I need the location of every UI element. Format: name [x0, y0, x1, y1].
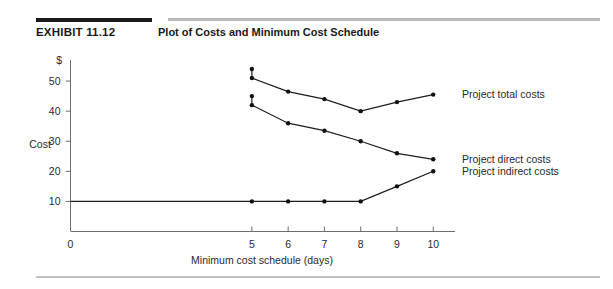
x-tick-label: 9: [394, 238, 400, 250]
y-tick-label: 20: [49, 165, 61, 177]
chart-series-layer: [71, 67, 436, 204]
series-data-point: [395, 100, 399, 104]
series-data-point: [322, 97, 326, 101]
x-tick-label: 0: [68, 238, 74, 250]
chart-axes: [71, 60, 456, 232]
series-line-path: [71, 171, 434, 201]
series-cap-point: [250, 94, 254, 98]
cost-schedule-chart: 1020304050 $ Cost 05678910 Minimum cost …: [0, 46, 613, 276]
series-data-point: [250, 76, 254, 80]
x-axis-ticks: 05678910: [68, 227, 440, 250]
series-data-point: [286, 121, 290, 125]
series-data-point: [250, 199, 254, 203]
series-line-path: [252, 78, 433, 111]
chart-canvas: 1020304050 $ Cost 05678910 Minimum cost …: [0, 46, 613, 276]
exhibit-header: EXHIBIT 11.12 Plot of Costs and Minimum …: [0, 0, 613, 48]
y-tick-label: 10: [49, 195, 61, 207]
series-1: [250, 67, 436, 114]
x-axis-title: Minimum cost schedule (days): [191, 254, 333, 266]
x-tick-label: 10: [427, 238, 439, 250]
y-axis-title: Cost: [29, 138, 51, 150]
series-data-point: [358, 109, 362, 113]
series-data-point: [395, 184, 399, 188]
exhibit-label: EXHIBIT 11.12: [36, 26, 115, 38]
y-axis-unit-label: $: [56, 54, 62, 66]
series-2: [250, 94, 436, 162]
chart-legend: Project total costsProject direct costsP…: [462, 88, 559, 177]
legend-label-3: Project indirect costs: [462, 165, 559, 177]
exhibit-title: Plot of Costs and Minimum Cost Schedule: [158, 26, 379, 38]
exhibit-title-rule: [168, 18, 600, 21]
series-data-point: [286, 89, 290, 93]
series-data-point: [250, 103, 254, 107]
series-data-point: [358, 199, 362, 203]
series-data-point: [358, 139, 362, 143]
legend-label-2: Project direct costs: [462, 153, 551, 165]
x-tick-label: 8: [358, 238, 364, 250]
exhibit-accent-rule: [36, 18, 152, 22]
y-tick-label: 40: [49, 105, 61, 117]
y-tick-label: 50: [49, 75, 61, 87]
series-line-path: [252, 105, 433, 159]
legend-label-1: Project total costs: [462, 88, 545, 100]
series-data-point: [322, 129, 326, 133]
x-tick-label: 6: [285, 238, 291, 250]
series-3: [71, 169, 436, 203]
series-cap-point: [250, 67, 254, 71]
series-data-point: [431, 92, 435, 96]
series-data-point: [431, 157, 435, 161]
x-tick-label: 7: [321, 238, 327, 250]
series-data-point: [286, 199, 290, 203]
x-tick-label: 5: [249, 238, 255, 250]
series-data-point: [322, 199, 326, 203]
y-axis-ticks: 1020304050: [49, 75, 71, 207]
series-data-point: [395, 151, 399, 155]
series-data-point: [431, 169, 435, 173]
footer-rule: [36, 276, 600, 278]
